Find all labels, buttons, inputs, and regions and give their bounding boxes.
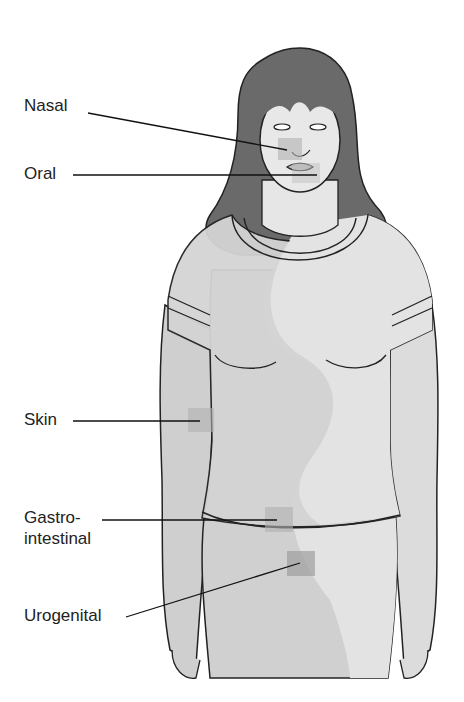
oral-site xyxy=(292,163,320,183)
skin-site xyxy=(188,408,214,432)
label-nasal: Nasal xyxy=(24,96,67,116)
label-urogenital: Urogenital xyxy=(24,606,102,626)
figure-illustration xyxy=(0,0,464,702)
label-skin: Skin xyxy=(24,410,57,430)
label-intestinal: intestinal xyxy=(24,529,91,549)
urogenital-site xyxy=(287,551,315,576)
label-oral: Oral xyxy=(24,164,56,184)
label-gastro: Gastro- xyxy=(24,508,81,528)
anatomy-figure xyxy=(0,0,464,702)
